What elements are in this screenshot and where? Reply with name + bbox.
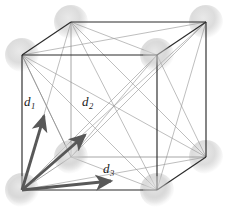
basis-vectors [22,116,111,190]
vector-label-d2: d2 [82,95,93,108]
atom-sphere [143,176,171,204]
crystal-lattice-figure: d1 d2 d3 [0,0,230,212]
atom-sphere [143,41,171,69]
vector-label-d1: d1 [24,95,35,108]
vector-label-d3: d3 [103,162,114,175]
